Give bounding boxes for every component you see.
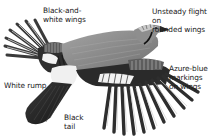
label-white-rump: White rump <box>4 81 46 90</box>
label-unsteady-flight: Unsteady flight on rounded wings <box>152 7 216 34</box>
label-black-tail: Black tail <box>64 113 84 131</box>
bird-illustration: Black-and- white wings Unsteady flight o… <box>0 0 216 140</box>
label-black-and-white-wings: Black-and- white wings <box>43 6 86 24</box>
label-azure-blue-markings: Azure-blue markings on wings <box>169 64 208 91</box>
